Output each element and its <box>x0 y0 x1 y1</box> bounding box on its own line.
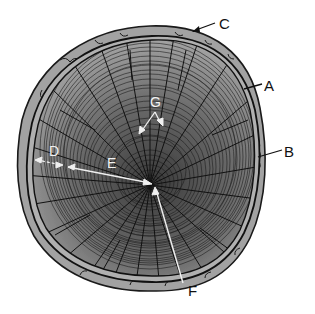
label-c: C <box>219 16 230 31</box>
label-a: A <box>264 78 274 93</box>
label-e: E <box>107 156 116 170</box>
label-g: G <box>150 95 161 109</box>
label-d: D <box>49 144 59 158</box>
diagram-canvas <box>0 0 315 314</box>
pointer-c <box>192 23 215 32</box>
wood-body <box>0 0 315 314</box>
tree-cross-section-diagram: C A B D E F G <box>0 0 315 314</box>
label-b: B <box>284 144 294 159</box>
label-f: F <box>188 283 197 298</box>
